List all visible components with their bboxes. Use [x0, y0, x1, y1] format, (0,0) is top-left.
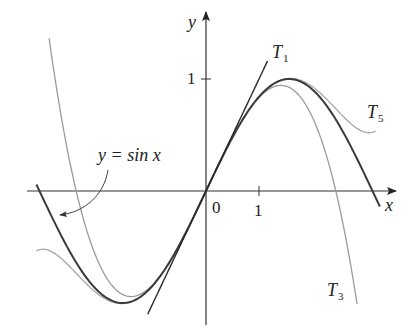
- y-tick-label: 1: [187, 70, 196, 87]
- y-axis-label: y: [188, 13, 196, 31]
- plot-area: [0, 0, 415, 331]
- curve-t1: [148, 61, 268, 314]
- t3-label: T3: [327, 281, 344, 299]
- t5-label-main: T: [367, 102, 377, 122]
- t3-label-main: T: [327, 280, 337, 300]
- t1-label: T1: [272, 43, 289, 61]
- t1-label-sub: 1: [283, 52, 289, 64]
- t5-label: T5: [367, 103, 384, 121]
- annotation-arrow: [60, 170, 108, 215]
- t3-label-sub: 3: [338, 290, 344, 302]
- sin-curve-label: y = sin x: [98, 146, 161, 164]
- t1-label-main: T: [272, 42, 282, 62]
- origin-label: 0: [212, 199, 221, 216]
- t5-label-sub: 5: [378, 112, 384, 124]
- x-axis-label: x: [385, 196, 393, 214]
- x-tick-label: 1: [254, 202, 263, 219]
- curve-t3: [49, 38, 357, 304]
